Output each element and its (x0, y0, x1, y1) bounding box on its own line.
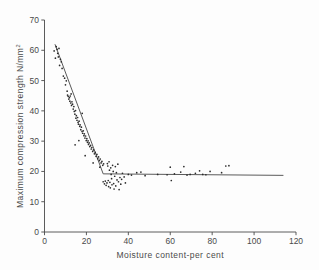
trend-line (55, 44, 283, 175)
x-tick-label: 80 (207, 236, 217, 246)
data-point (92, 162, 94, 164)
data-point (67, 95, 69, 97)
data-point (127, 174, 129, 176)
data-point (85, 140, 87, 142)
data-point (228, 165, 230, 167)
x-tick-label: 0 (42, 236, 47, 246)
data-point (99, 158, 101, 160)
data-point (118, 181, 120, 183)
data-point (73, 106, 75, 108)
data-point (105, 185, 107, 187)
data-point (166, 174, 168, 176)
data-point (205, 174, 207, 176)
data-point (72, 103, 74, 105)
data-point (157, 174, 159, 176)
data-point (100, 162, 102, 164)
data-point (180, 171, 182, 173)
data-point (103, 163, 105, 165)
y-axis-title: Maximum compression strength N/mm2 (15, 44, 25, 208)
data-point (86, 138, 88, 140)
data-point (109, 181, 111, 183)
data-point (118, 189, 120, 191)
data-point (66, 90, 68, 92)
data-point (78, 140, 80, 142)
data-point (96, 154, 98, 156)
data-point (69, 100, 71, 102)
data-point (170, 180, 172, 182)
data-point (108, 186, 110, 188)
axis-tick-labels: 010203040506070020406080100120 (30, 15, 304, 246)
data-point (77, 117, 79, 119)
data-point (110, 167, 112, 169)
data-point (99, 166, 101, 168)
data-point (68, 98, 70, 100)
data-point (79, 125, 81, 127)
data-point (115, 185, 117, 187)
data-point (120, 183, 122, 185)
axis-titles: Moisture content-per centMaximum compres… (15, 44, 225, 260)
data-point (99, 160, 101, 162)
data-point (113, 188, 115, 190)
data-point (104, 180, 106, 182)
data-point (55, 46, 57, 48)
axis-ticks (41, 20, 296, 235)
y-tick-label: 60 (30, 45, 40, 55)
data-point (102, 181, 104, 183)
chart-figure: 010203040506070020406080100120 Moisture … (0, 0, 319, 270)
data-point (72, 108, 74, 110)
data-point (80, 129, 82, 131)
data-point (69, 97, 71, 99)
y-tick-label: 50 (30, 76, 40, 86)
x-tick-label: 20 (82, 236, 92, 246)
data-point (81, 112, 83, 114)
data-point (61, 68, 63, 70)
data-point (93, 149, 95, 151)
data-point (225, 165, 227, 167)
data-point (174, 173, 176, 175)
data-point (111, 184, 113, 186)
data-point (195, 172, 197, 174)
data-point (58, 48, 60, 50)
data-point (87, 142, 89, 144)
data-point (136, 172, 138, 174)
data-point (140, 171, 142, 173)
data-point (112, 171, 114, 173)
data-point (75, 117, 77, 119)
data-point (209, 171, 211, 173)
data-point (69, 95, 71, 97)
data-points (53, 46, 229, 191)
data-point (116, 172, 118, 174)
x-axis-title: Moisture content-per cent (116, 250, 224, 260)
data-point (109, 169, 111, 171)
data-point (108, 161, 110, 163)
data-point (65, 80, 67, 82)
data-point (83, 133, 85, 135)
data-point (114, 175, 116, 177)
y-tick-label: 10 (30, 197, 40, 207)
data-point (88, 144, 90, 146)
data-point (114, 166, 116, 168)
data-point (107, 163, 109, 165)
data-point (84, 155, 86, 157)
data-point (106, 182, 108, 184)
data-point (121, 178, 123, 180)
data-point (76, 119, 78, 121)
data-point (53, 50, 55, 52)
data-point (112, 165, 114, 167)
data-point (221, 172, 223, 174)
data-point (82, 132, 84, 134)
data-point (102, 165, 104, 167)
data-point (56, 49, 58, 51)
data-point (119, 177, 121, 179)
data-point (85, 135, 87, 137)
data-point (55, 57, 57, 59)
data-point (70, 93, 72, 95)
data-point (107, 180, 109, 182)
x-tick-label: 40 (124, 236, 134, 246)
data-point (87, 140, 89, 142)
y-tick-label: 0 (34, 227, 39, 237)
data-point (202, 174, 204, 176)
data-point (74, 113, 76, 115)
data-point (57, 56, 59, 58)
data-point (59, 65, 61, 67)
